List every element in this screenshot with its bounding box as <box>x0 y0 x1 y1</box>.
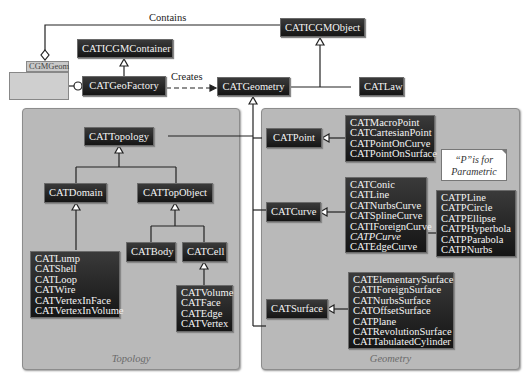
contains-label: Contains <box>149 12 186 23</box>
list-item[interactable]: CATVertexInVolume <box>35 306 115 316</box>
list-item[interactable]: CATVertex <box>181 319 228 329</box>
class-catcurve[interactable]: CATCurve <box>266 202 321 222</box>
class-catcell[interactable]: CATCell <box>182 242 227 262</box>
list-item[interactable]: CATEdgeCurve <box>350 242 422 252</box>
list-curve-children: CATConic CATLine CATNurbsCurve CATSpline… <box>345 177 427 253</box>
list-domain-children: CATLump CATShell CATLoop CATWire CATVert… <box>30 251 120 318</box>
class-catgeometry[interactable]: CATGeometry <box>217 77 290 96</box>
class-caticgmobject[interactable]: CATICGMObject <box>280 18 365 37</box>
list-item[interactable]: CATTabulatedCylinder <box>353 337 449 347</box>
class-catpoint[interactable]: CATPoint <box>266 128 322 148</box>
note-line-1: “P”is for <box>442 154 506 166</box>
list-item[interactable]: CATPNurbs <box>441 245 511 255</box>
class-catbody[interactable]: CATBody <box>126 242 176 262</box>
class-catsurface[interactable]: CATSurface <box>266 299 328 319</box>
list-point-children: CATMacroPoint CATCartesianPoint CATPoint… <box>345 115 435 162</box>
list-cell-children: CATVolume CATFace CATEdge CATVertex <box>176 285 233 332</box>
list-item[interactable]: CATPointOnSurface <box>350 149 430 159</box>
class-catlaw[interactable]: CATLaw <box>359 77 404 96</box>
note-line-2: Parametric <box>442 166 506 178</box>
creates-label: Creates <box>171 71 203 82</box>
class-cattopology[interactable]: CATTopology <box>84 127 154 146</box>
list-pcurve-children: CATPLine CATPCircle CATPEllipse CATPHype… <box>436 190 516 257</box>
class-catgeofactory[interactable]: CATGeoFactory <box>82 76 166 96</box>
parametric-note: “P”is for Parametric <box>441 149 507 181</box>
note-dogear <box>501 149 507 155</box>
list-surface-children: CATElementarySurface CATIForeignSurface … <box>348 272 454 349</box>
class-catdomain[interactable]: CATDomain <box>44 183 107 203</box>
class-cattopobject[interactable]: CATTopObject <box>137 183 213 203</box>
class-caticgmcontainer[interactable]: CATICGMContainer <box>77 39 173 58</box>
